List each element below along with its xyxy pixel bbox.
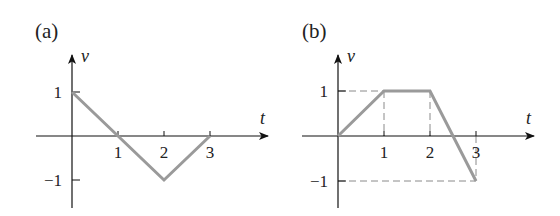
y-tick-label: 1 (320, 82, 329, 101)
panel-label: (b) (302, 19, 327, 43)
panel-a: (a)1231−1tv (35, 19, 268, 208)
x-tick-label: 3 (206, 143, 215, 162)
x-tick-label: 1 (114, 143, 123, 162)
y-tick-label: −1 (310, 172, 328, 191)
chart-canvas: (a)1231−1tv(b)1231−1tv (0, 0, 560, 216)
x-tick-label: 1 (380, 143, 389, 162)
x-tick-label: 2 (160, 143, 169, 162)
x-tick-label: 2 (426, 143, 435, 162)
y-tick-label: 1 (54, 83, 63, 102)
x-axis-label: t (526, 108, 532, 128)
y-tick-label: −1 (44, 171, 62, 190)
y-axis-label: v (347, 46, 355, 66)
panel-b: (b)1231−1tv (302, 19, 534, 208)
x-axis-label: t (260, 108, 266, 128)
panel-label: (a) (35, 19, 58, 43)
x-tick-label: 3 (472, 143, 481, 162)
y-axis-label: v (81, 46, 89, 66)
